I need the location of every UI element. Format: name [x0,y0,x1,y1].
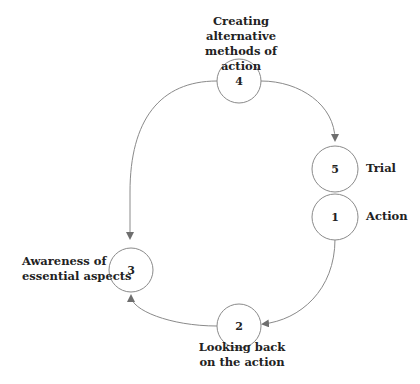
svg-text:2: 2 [235,320,243,333]
edge-4-to-5 [261,81,335,140]
node-1: 1 [312,194,358,240]
label-node-4-line2: methods of action [183,44,299,74]
label-node-3: Awareness of essential aspects [22,254,132,284]
label-node-1-text: Action [366,209,408,223]
svg-text:4: 4 [235,75,243,88]
edge-1-to-2 [263,239,335,324]
svg-text:5: 5 [331,163,339,176]
label-node-2-line2: on the action [192,355,292,370]
label-node-5: Trial [366,161,396,176]
svg-text:1: 1 [331,211,339,224]
label-node-4: Creating alternative methods of action [183,14,299,74]
label-node-5-text: Trial [366,161,396,175]
node-5: 5 [312,146,358,192]
label-node-4-line1: Creating alternative [183,14,299,44]
label-node-3-line2: essential aspects [22,269,132,284]
label-node-3-line1: Awareness of [22,254,132,269]
label-node-2-line1: Looking back [192,340,292,355]
edge-2-to-3 [131,296,217,326]
label-node-1: Action [366,209,408,224]
edge-4-to-3 [130,81,217,238]
label-node-2: Looking back on the action [192,340,292,370]
